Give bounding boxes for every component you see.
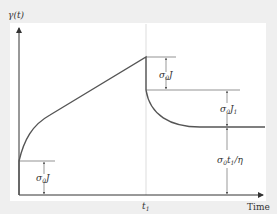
label-permanent-flow: σ0t1/η [217,155,243,166]
creep-recovery-diagram: γ(t) Time t1 σ0J σ0J1 σ0t1/η σ0J [0,0,277,214]
x-axis-label: Time [247,202,270,212]
label-elastic-top: σ0J [159,70,174,81]
strain-curve [19,57,265,195]
y-axis-label: γ(t) [8,10,25,20]
t1-tick-label: t1 [142,201,149,212]
label-delayed-recovery: σ0J1 [220,104,237,115]
label-elastic-bottom: σ0J [36,173,51,184]
